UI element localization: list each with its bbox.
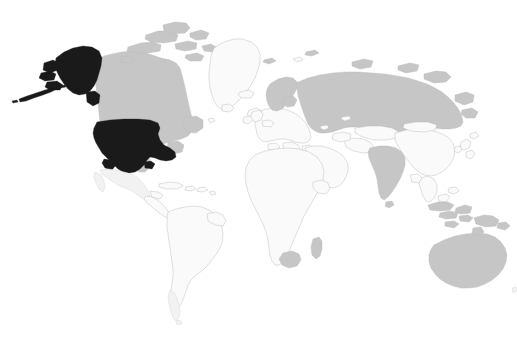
world-map-container: Highlighted Medium Light Base World map …	[0, 0, 517, 338]
world-map-svg	[0, 0, 517, 338]
